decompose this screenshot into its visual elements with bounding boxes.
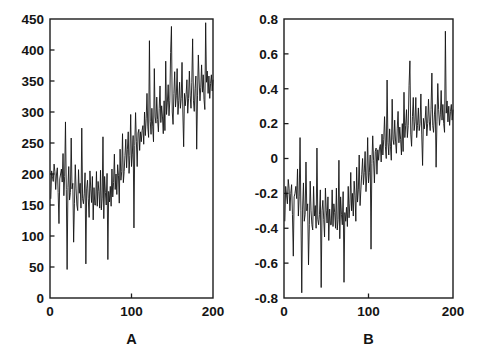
y-tick-labels-a: 050100150200250300350400450 [21, 12, 44, 306]
y-tick-label: 0.8 [259, 12, 278, 27]
y-tick-label: 150 [21, 198, 44, 213]
y-tick-label: 0.2 [259, 116, 278, 131]
x-tick-label: 100 [357, 304, 380, 319]
x-tick-labels-a: 0100200 [46, 304, 224, 319]
y-tick-label: 450 [21, 12, 44, 27]
axis-frame-b [284, 19, 453, 298]
y-tick-label: 350 [21, 74, 44, 89]
y-tick-label: 0.4 [259, 82, 278, 97]
y-tick-label: 0 [270, 151, 278, 166]
y-tick-label: -0.2 [255, 186, 278, 201]
y-tick-label: 0 [36, 291, 44, 306]
x-tick-label: 0 [280, 304, 288, 319]
chart-panel-a: 050100150200250300350400450 0100200 A [0, 0, 240, 354]
y-tick-label: 400 [21, 43, 44, 58]
x-tick-label: 200 [202, 304, 225, 319]
data-series-line-a [51, 23, 213, 270]
x-axis-title-a: A [126, 331, 137, 347]
x-tick-label: 100 [120, 304, 143, 319]
plot-svg-a: 050100150200250300350400450 0100200 A [0, 0, 240, 354]
y-tick-labels-b: -0.8-0.6-0.4-0.200.20.40.60.8 [255, 12, 279, 306]
x-axis-title-b: B [363, 331, 373, 347]
tick-marks-b [284, 54, 369, 298]
x-tick-labels-b: 0100200 [280, 304, 464, 319]
y-tick-label: 0.6 [259, 47, 278, 62]
x-tick-label: 200 [442, 304, 465, 319]
y-tick-label: -0.8 [255, 291, 279, 306]
y-tick-label: -0.4 [255, 221, 279, 236]
y-tick-label: -0.6 [255, 256, 279, 271]
figure-container: 050100150200250300350400450 0100200 A -0… [0, 0, 480, 354]
y-tick-label: 100 [21, 229, 44, 244]
y-tick-label: 50 [29, 260, 44, 275]
y-tick-label: 250 [21, 136, 44, 151]
plot-svg-b: -0.8-0.6-0.4-0.200.20.40.60.8 0100200 B [240, 0, 480, 354]
data-series-line-b [285, 31, 453, 293]
y-tick-label: 300 [21, 105, 44, 120]
y-tick-label: 200 [21, 167, 44, 182]
chart-panel-b: -0.8-0.6-0.4-0.200.20.40.60.8 0100200 B [240, 0, 480, 354]
x-tick-label: 0 [46, 304, 54, 319]
